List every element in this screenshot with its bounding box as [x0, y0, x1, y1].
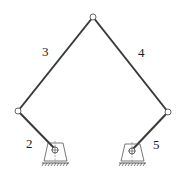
link-label-2: 2 — [26, 136, 33, 151]
link-label-3: 3 — [42, 44, 49, 59]
left-joint-icon — [15, 108, 21, 114]
top-joint-icon — [90, 14, 96, 20]
link-label-4: 4 — [138, 45, 145, 60]
left-ground-support — [42, 141, 69, 166]
right-ground-support — [119, 142, 146, 166]
right-joint-icon — [165, 109, 171, 115]
linkage-diagram: 3 4 2 5 — [0, 0, 196, 194]
link-4 — [93, 17, 168, 112]
link-3 — [18, 17, 93, 111]
link-label-5: 5 — [153, 137, 160, 152]
